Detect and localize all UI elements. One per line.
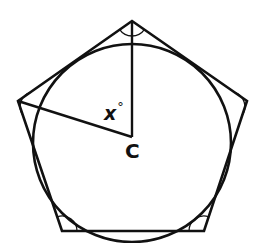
pentagon-diagram bbox=[0, 0, 261, 243]
angle-variable: x bbox=[104, 102, 116, 124]
center-label: C bbox=[125, 141, 140, 161]
angle-mark-right bbox=[235, 92, 245, 115]
degree-symbol: ° bbox=[117, 99, 124, 114]
angle-x-label: x° bbox=[104, 104, 123, 123]
